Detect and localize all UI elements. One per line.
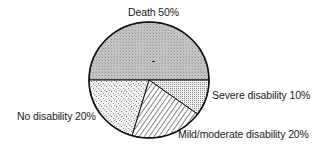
label-death: Death 50% — [128, 6, 179, 18]
label-mild-moderate-disability: Mild/moderate disability 20% — [178, 128, 309, 140]
center-mark — [152, 61, 155, 62]
label-severe-disability: Severe disability 10% — [212, 89, 310, 101]
slice-death — [89, 22, 209, 80]
label-no-disability: No disability 20% — [17, 110, 96, 122]
